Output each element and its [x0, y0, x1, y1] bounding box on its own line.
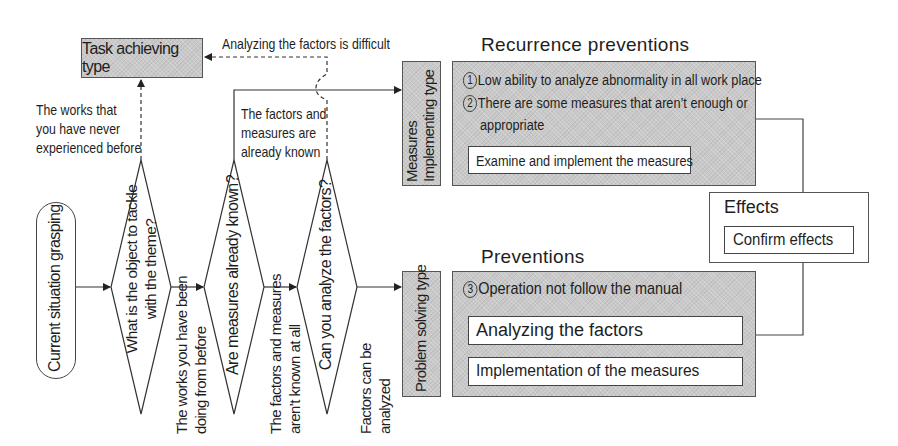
decision-2-text: Are measures already known?: [224, 170, 242, 380]
preventions-box: 3Operation not follow the manual Analyzi…: [452, 271, 756, 397]
not-known-label: The factors and measures aren’t known at…: [266, 274, 304, 434]
effects-box: Effects Confirm effects: [709, 192, 869, 263]
implementation-measures-box: Implementation of the measures: [468, 357, 743, 386]
decision-1-text: What is the object to tackle with the th…: [122, 164, 160, 374]
recurrence-preventions-box: 1Low ability to analyze abnormality in a…: [452, 61, 756, 186]
effects-title: Effects: [724, 197, 779, 218]
start-node-label: Current situation grasping: [46, 204, 64, 372]
analyzing-factors-box: Analyzing the factors: [468, 316, 743, 345]
doing-before-label: The works you have been doing from befor…: [172, 276, 210, 434]
problem-solving-type-label: Problem solving type: [412, 265, 430, 392]
recurrence-item-2: 2There are some measures that aren’t eno…: [463, 93, 748, 112]
task-achieving-type-box: Task achieving type: [81, 38, 203, 78]
task-achieving-type-label: Task achieving type: [82, 40, 202, 76]
recurrence-item-2-cont: appropriate: [480, 115, 544, 134]
confirm-effects-label: Confirm effects: [733, 230, 833, 249]
analyzing-difficult-label: Analyzing the factors is difficult: [222, 34, 390, 53]
recurrence-preventions-title: Recurrence preventions: [481, 34, 689, 56]
decision-3-text: Can you analyze the factors?: [317, 170, 335, 380]
already-known-label: The factors and measures are already kno…: [241, 104, 326, 161]
can-analyze-label: Factors can be analyzed: [356, 343, 394, 434]
recurrence-item-1: 1Low ability to analyze abnormality in a…: [463, 70, 762, 89]
prevention-item-3: 3Operation not follow the manual: [463, 279, 682, 298]
never-experienced-label: The works that you have never experience…: [36, 100, 141, 157]
examine-implement-label: Examine and implement the measures: [476, 151, 693, 170]
confirm-effects-box: Confirm effects: [724, 226, 854, 254]
analyzing-factors-label: Analyzing the factors: [476, 320, 643, 341]
measures-implementing-type-label: Measures Implementing type: [403, 70, 437, 182]
examine-implement-box: Examine and implement the measures: [468, 146, 691, 174]
preventions-title: Preventions: [481, 246, 585, 268]
implementation-measures-label: Implementation of the measures: [476, 361, 699, 381]
